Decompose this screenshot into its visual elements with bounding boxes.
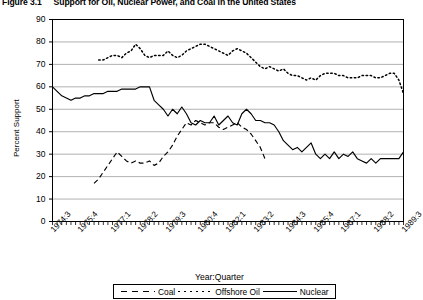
y-tick-label: 60 <box>24 81 46 91</box>
series-line-nuclear <box>53 87 404 163</box>
y-axis-title: Percent Support <box>12 99 21 157</box>
series-line-offshore-oil <box>99 44 404 93</box>
legend-label: Nuclear <box>299 287 330 297</box>
legend-swatch-dashed-icon <box>121 291 155 292</box>
y-tick-label: 10 <box>24 194 46 204</box>
plot-frame <box>53 20 404 222</box>
legend-label: Coal <box>157 287 176 297</box>
chart-legend: CoalOffshore OilNuclear <box>113 284 336 299</box>
y-tick-label: 30 <box>24 149 46 159</box>
y-tick-label: 70 <box>24 59 46 69</box>
x-axis-title: Year:Quarter <box>195 272 244 282</box>
y-axis-ticks <box>49 20 53 222</box>
gridlines <box>53 42 404 199</box>
y-tick-label: 40 <box>24 126 46 136</box>
series-line-coal <box>94 121 265 184</box>
legend-swatch-dotted-icon <box>178 291 212 292</box>
y-tick-label: 0 <box>24 216 46 226</box>
y-tick-label: 80 <box>24 36 46 46</box>
legend-item-offshore-oil: Offshore Oil <box>176 287 261 297</box>
y-tick-label: 20 <box>24 171 46 181</box>
y-tick-label: 90 <box>24 14 46 24</box>
legend-label: Offshore Oil <box>214 287 261 297</box>
legend-swatch-solid-icon <box>263 291 297 292</box>
legend-item-nuclear: Nuclear <box>261 287 330 297</box>
y-tick-label: 50 <box>24 104 46 114</box>
series-lines <box>53 44 404 183</box>
legend-item-coal: Coal <box>119 287 176 297</box>
